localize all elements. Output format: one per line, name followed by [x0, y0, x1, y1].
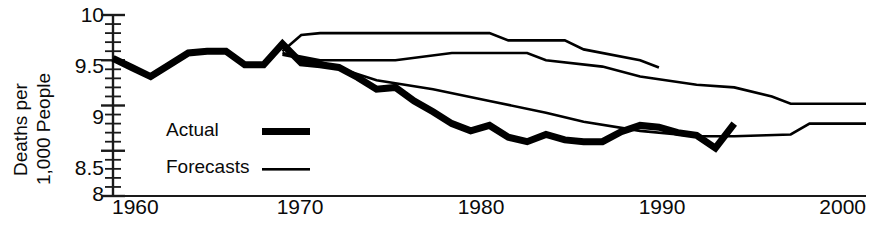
y-tick-label-10: 10 [81, 3, 104, 26]
legend-label-actual: Actual [166, 119, 219, 140]
y-tick-label-9-5: 9.5 [75, 54, 104, 77]
legend-label-forecasts: Forecasts [166, 156, 249, 177]
x-tick-label-1980: 1980 [458, 195, 505, 218]
legend-swatch-actual [262, 128, 310, 135]
chart-container: Deaths per 1,000 People 10 9.5 9 8.5 8 1… [0, 0, 876, 244]
x-tick-label-1960: 1960 [112, 195, 159, 218]
y-axis-title-line2: 1,000 People [33, 73, 54, 185]
y-tick-label-8-5: 8.5 [75, 156, 104, 179]
x-tick-label-1970: 1970 [277, 195, 324, 218]
x-tick-label-2000: 2000 [819, 195, 866, 218]
x-tick-label-1990: 1990 [639, 195, 686, 218]
y-tick-label-9: 9 [92, 105, 104, 128]
y-axis-title-line1: Deaths per [10, 82, 31, 176]
legend-swatch-forecasts [262, 168, 310, 171]
line-chart: Deaths per 1,000 People 10 9.5 9 8.5 8 1… [0, 0, 876, 244]
y-tick-label-8: 8 [92, 182, 104, 205]
